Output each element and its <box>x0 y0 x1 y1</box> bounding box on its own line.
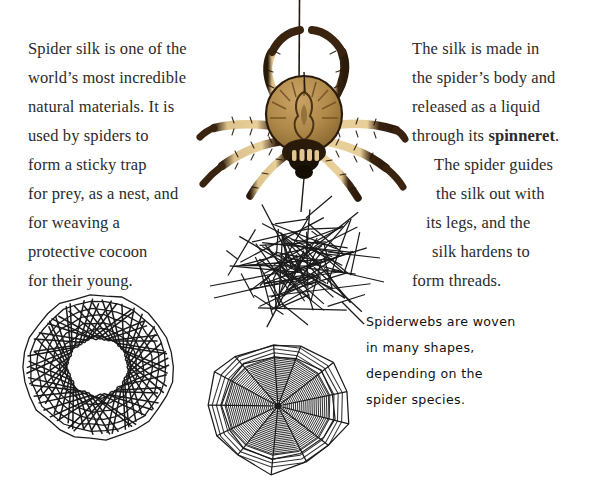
spiral-ring-web-illustration <box>20 292 180 447</box>
dragline-attachment <box>304 72 305 92</box>
paragraph-line: the silk out with <box>412 179 559 208</box>
spider-illustration <box>200 0 405 215</box>
paragraph-line: for their young. <box>28 266 187 295</box>
silk-production-paragraph: The silk is made in the spider’s body an… <box>412 34 559 295</box>
paragraph-line: released as a liquid <box>412 92 559 121</box>
caption-line: Spiderwebs are woven <box>366 309 516 335</box>
line-prefix: through its <box>412 126 488 145</box>
spiderweb-shapes-caption: Spiderwebs are woven in many shapes, dep… <box>366 309 516 413</box>
paragraph-line: for weaving a <box>28 208 187 237</box>
paragraph-line: The silk is made in <box>412 34 559 63</box>
orb-web-illustration <box>198 330 363 483</box>
paragraph-line: silk hardens to <box>412 237 559 266</box>
tangled-web-illustration <box>210 196 385 326</box>
paragraph-line: The spider guides <box>412 150 559 179</box>
paragraph-line: world’s most incredible <box>28 63 187 92</box>
paragraph-line: for prey, as a nest, and <box>28 179 187 208</box>
spider-cephalothorax <box>282 139 326 179</box>
paragraph-line: form a sticky trap <box>28 150 187 179</box>
line-suffix: . <box>555 126 559 145</box>
paragraph-line: Spider silk is one of the <box>28 34 187 63</box>
paragraph-line: form threads. <box>412 266 559 295</box>
paragraph-line: natural materials. It is <box>28 92 187 121</box>
spinneret-term: spinneret <box>488 126 555 145</box>
caption-line: depending on the <box>366 361 516 387</box>
paragraph-line: used by spiders to <box>28 121 187 150</box>
caption-line: in many shapes, <box>366 335 516 361</box>
caption-line: spider species. <box>366 387 516 413</box>
paragraph-line: its legs, and the <box>412 208 559 237</box>
paragraph-line: protective cocoon <box>28 237 187 266</box>
paragraph-line: the spider’s body and <box>412 63 559 92</box>
spider-silk-intro-paragraph: Spider silk is one of the world’s most i… <box>28 34 187 295</box>
paragraph-line-spinneret: through its spinneret. <box>412 121 559 150</box>
